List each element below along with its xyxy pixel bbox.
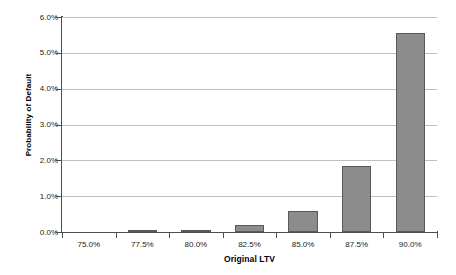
x-axis-tick-mark: [383, 233, 384, 238]
x-axis-tick-label: 82.5%: [223, 240, 277, 250]
bar: [128, 230, 158, 232]
y-axis-tick-label: 0.0%: [10, 228, 58, 237]
y-axis-tick-label: 5.0%: [10, 48, 58, 57]
x-axis-tick-labels: 75.0%77.5%80.0%82.5%85.0%87.5%90.0%: [62, 240, 437, 254]
bar: [396, 33, 426, 232]
x-axis-tick-mark: [169, 233, 170, 238]
x-axis-tick-mark: [223, 233, 224, 238]
y-axis-tick-label: 1.0%: [10, 192, 58, 201]
x-axis-title: Original LTV: [62, 254, 437, 265]
x-axis-tick-mark: [437, 233, 438, 238]
y-axis-tick-label: 3.0%: [10, 120, 58, 129]
x-axis-tick-label: 87.5%: [330, 240, 384, 250]
x-axis-tick-label: 77.5%: [116, 240, 170, 250]
y-axis-tick-label: 6.0%: [10, 13, 58, 22]
bar: [288, 211, 318, 233]
y-axis-tick-label: 4.0%: [10, 84, 58, 93]
bar-series: [62, 17, 437, 232]
bar: [342, 166, 372, 232]
y-axis-tick-labels: 0.0%1.0%2.0%3.0%4.0%5.0%6.0%: [8, 0, 58, 275]
x-axis-tick-label: 85.0%: [276, 240, 330, 250]
x-axis-tick-mark: [116, 233, 117, 238]
bar-chart: Probability of Default 0.0%1.0%2.0%3.0%4…: [0, 0, 456, 275]
bar: [235, 225, 265, 232]
x-axis-tick-label: 75.0%: [62, 240, 116, 250]
x-axis-tick-mark: [330, 233, 331, 238]
x-axis-tick-mark: [276, 233, 277, 238]
x-axis-tick-label: 90.0%: [383, 240, 437, 250]
y-axis-tick-label: 2.0%: [10, 156, 58, 165]
x-axis-tick-label: 80.0%: [169, 240, 223, 250]
x-axis-tick-mark: [62, 233, 63, 238]
bar: [181, 230, 211, 233]
